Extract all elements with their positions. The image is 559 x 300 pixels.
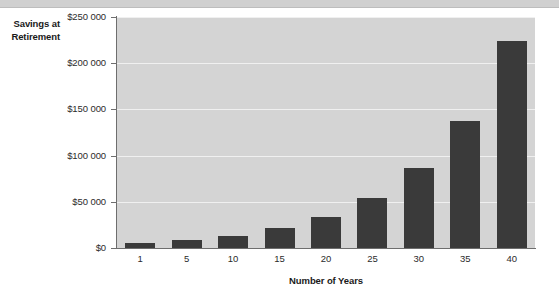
bar (450, 121, 480, 249)
y-axis-tick-label: $50 000 (16, 196, 106, 207)
y-axis-tick-mark (111, 17, 117, 18)
x-axis-tick-label: 20 (303, 253, 349, 264)
gridline (117, 17, 535, 18)
x-axis-tick-label: 30 (396, 253, 442, 264)
x-axis-tick-label: 40 (489, 253, 535, 264)
chart-figure: Savings at Retirement $0$50 000$100 000$… (0, 0, 559, 300)
x-axis-tick-label: 35 (442, 253, 488, 264)
y-axis-tick-label: $250 000 (16, 11, 106, 22)
x-axis-tick-label: 15 (257, 253, 303, 264)
y-axis-line (116, 16, 117, 249)
bar (497, 41, 527, 248)
bar (311, 217, 341, 248)
y-axis-tick-mark (111, 156, 117, 157)
y-axis-tick-label: $200 000 (16, 57, 106, 68)
y-axis-tick-mark (111, 63, 117, 64)
y-axis-tick-mark (111, 109, 117, 110)
top-band-divider (0, 7, 559, 8)
y-axis-tick-label: $0 (16, 242, 106, 253)
gridline (117, 63, 535, 64)
y-axis-title-line2: Retirement (2, 30, 60, 43)
bar (404, 168, 434, 248)
x-axis-tick-label: 10 (210, 253, 256, 264)
top-decorative-band (0, 0, 559, 7)
bar (218, 236, 248, 248)
x-axis-tick-label: 25 (349, 253, 395, 264)
y-axis-tick-mark (111, 248, 117, 249)
y-axis-tick-label: $150 000 (16, 103, 106, 114)
y-axis-tick-mark (111, 202, 117, 203)
x-axis-line (116, 248, 536, 249)
x-axis-tick-label: 1 (117, 253, 163, 264)
x-axis-title: Number of Years (117, 275, 535, 286)
x-axis-tick-label: 5 (164, 253, 210, 264)
y-axis-tick-label: $100 000 (16, 150, 106, 161)
bar (357, 198, 387, 248)
bar (265, 228, 295, 248)
gridline (117, 109, 535, 110)
plot-area (117, 17, 535, 248)
bar (172, 240, 202, 248)
